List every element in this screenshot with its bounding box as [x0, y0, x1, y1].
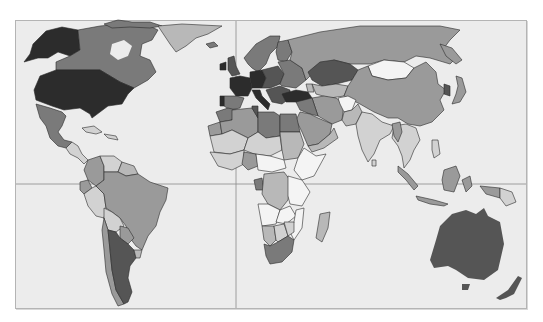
region-indonesia-papua[interactable]	[480, 186, 500, 198]
region-central-africa[interactable]	[256, 154, 286, 172]
world-map	[0, 0, 543, 322]
region-indonesia-sulawesi[interactable]	[462, 176, 472, 192]
region-central-america[interactable]	[66, 142, 88, 164]
region-nigeria[interactable]	[242, 152, 258, 170]
region-tasmania[interactable]	[462, 284, 470, 290]
region-united-kingdom[interactable]	[228, 56, 240, 76]
region-caribbean[interactable]	[82, 126, 102, 134]
region-greenland[interactable]	[158, 24, 222, 52]
region-portugal[interactable]	[220, 96, 224, 106]
region-east-africa[interactable]	[288, 176, 310, 206]
region-namibia[interactable]	[262, 226, 276, 246]
region-indonesia-java[interactable]	[416, 196, 448, 206]
region-iceland[interactable]	[206, 42, 218, 48]
region-philippines[interactable]	[432, 140, 440, 158]
region-japan[interactable]	[452, 76, 466, 104]
region-caribbean-2[interactable]	[104, 134, 118, 140]
region-western-sahara[interactable]	[208, 122, 222, 136]
region-france[interactable]	[230, 76, 252, 96]
region-india[interactable]	[356, 112, 394, 162]
region-madagascar[interactable]	[316, 212, 330, 242]
region-sri-lanka[interactable]	[372, 160, 376, 166]
region-canada-islands[interactable]	[104, 20, 162, 28]
region-papua-new-guinea[interactable]	[500, 188, 516, 206]
region-spain[interactable]	[224, 96, 244, 110]
region-indonesia-sumatra[interactable]	[398, 166, 418, 190]
region-indonesia-borneo[interactable]	[442, 166, 460, 192]
region-ireland[interactable]	[220, 62, 226, 70]
region-mexico[interactable]	[36, 104, 72, 148]
region-new-zealand[interactable]	[496, 276, 522, 300]
region-central-asia[interactable]	[312, 84, 348, 98]
region-korea[interactable]	[444, 84, 450, 96]
region-egypt[interactable]	[280, 114, 300, 132]
region-australia[interactable]	[430, 208, 504, 280]
